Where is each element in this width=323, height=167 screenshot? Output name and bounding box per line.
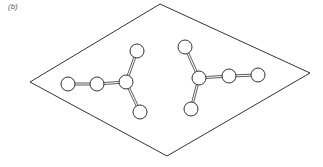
atom xyxy=(251,68,265,82)
atom xyxy=(222,69,236,83)
atom xyxy=(61,77,75,91)
atom xyxy=(184,102,198,116)
atom xyxy=(178,40,192,54)
right-molecule xyxy=(178,40,265,116)
atom xyxy=(90,77,104,91)
atom xyxy=(130,44,144,58)
atom xyxy=(133,105,147,119)
atom xyxy=(192,71,206,85)
molecule-diagram xyxy=(0,0,323,167)
atom xyxy=(119,75,133,89)
